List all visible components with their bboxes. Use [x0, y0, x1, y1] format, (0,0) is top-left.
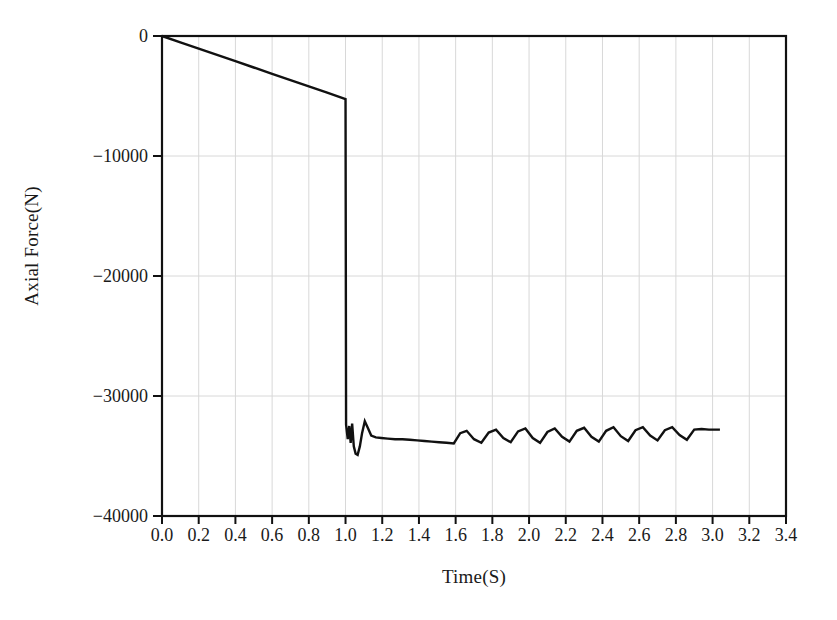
x-axis-tick-labels: 0.00.20.40.60.81.01.21.41.61.82.02.22.42…: [0, 0, 837, 620]
chart-figure: Axial Force(N) Time(S) 0−10000−20000−300…: [0, 0, 837, 620]
x-axis-tick-label: 3.4: [756, 526, 816, 544]
